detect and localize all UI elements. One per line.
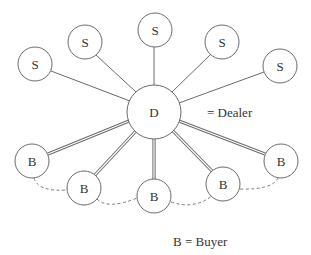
buyer-node-4: B	[206, 167, 240, 201]
seller-node-label: S	[276, 59, 283, 74]
buyer-legend: B = Buyer	[173, 234, 228, 249]
seller-node-3: S	[138, 13, 172, 47]
dealer-node-label: D	[149, 105, 158, 120]
dealer-node: D	[127, 85, 181, 139]
edge-b1-dealer	[48, 121, 129, 154]
seller-node-label: S	[81, 35, 88, 50]
dealer-network-diagram: S S S S S D B B B B B = Dealer	[0, 0, 311, 255]
seller-node-1: S	[18, 47, 52, 81]
edge-s5-dealer	[179, 72, 264, 103]
buyer-node-label: B	[80, 181, 89, 196]
buyer-node-2: B	[67, 171, 101, 205]
buyer-node-label: B	[150, 189, 159, 204]
buyer-node-5: B	[264, 144, 298, 178]
seller-node-5: S	[263, 49, 297, 83]
buyer-node-label: B	[28, 154, 37, 169]
buyer-node-label: B	[219, 177, 228, 192]
buyer-node-3: B	[137, 179, 171, 213]
dashed-link-b4-b5	[240, 178, 278, 189]
edge-s2-dealer	[96, 55, 136, 92]
seller-node-label: S	[218, 35, 225, 50]
seller-node-2: S	[68, 25, 102, 59]
edge-b4-dealer	[173, 131, 212, 171]
dashed-link-b3-b4	[171, 195, 213, 205]
seller-node-4: S	[205, 25, 239, 59]
dealer-legend: = Dealer	[207, 105, 253, 120]
seller-node-label: S	[31, 57, 38, 72]
buyer-node-1: B	[15, 144, 49, 178]
dashed-link-b2-b3	[97, 198, 137, 204]
edge-b2-dealer	[95, 131, 136, 175]
seller-node-label: S	[151, 23, 158, 38]
edge-s4-dealer	[172, 55, 210, 92]
buyer-node-label: B	[277, 154, 286, 169]
dashed-link-b1-b2	[34, 178, 67, 190]
